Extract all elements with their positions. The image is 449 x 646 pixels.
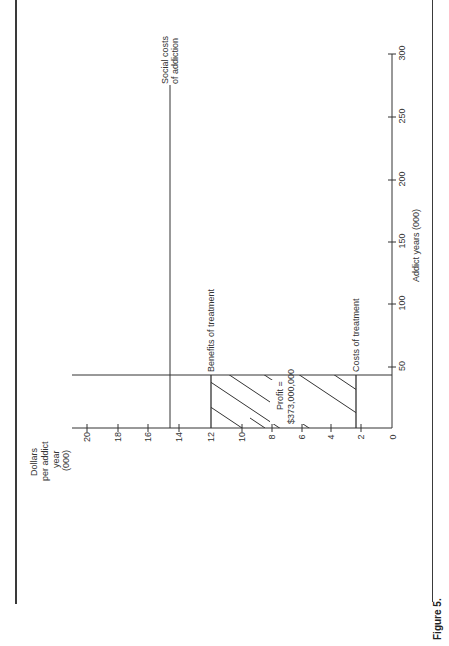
x-tick-label-250: 250 (397, 106, 407, 126)
costs-label: Costs of treatment (352, 298, 362, 372)
y-axis-title-line-4: (000) (62, 450, 72, 471)
figure-caption: Figure 5. (432, 598, 443, 640)
y-tick-label-4: 4 (326, 427, 336, 447)
y-tick-label-8: 8 (267, 427, 277, 447)
y-tick-label-6: 6 (297, 427, 307, 447)
y-tick-label-12: 12 (206, 427, 216, 447)
x-tick-label-150: 150 (397, 231, 407, 251)
y-axis-title-line-2: per addict (41, 441, 51, 481)
x-tick-label-100: 100 (397, 293, 407, 313)
y-tick-label-20: 20 (82, 427, 92, 447)
y-tick-label-16: 16 (143, 427, 153, 447)
benefits-label: Benefits of treatment (207, 289, 217, 372)
y-tick-label-10: 10 (237, 427, 247, 447)
x-tick-label-50: 50 (397, 356, 407, 376)
y-tick-label-18: 18 (113, 427, 123, 447)
y-tick-label-14: 14 (174, 427, 184, 447)
profit-label-line-2: $373,000,000 (287, 369, 297, 424)
chart-canvas (0, 0, 449, 646)
x-tick-label-200: 200 (397, 169, 407, 189)
y-tick-label-0: 0 (388, 427, 398, 447)
social-costs-label-line-2: of addiction (171, 38, 181, 84)
x-axis-title: Addict years (000) (412, 209, 422, 282)
y-axis-title-line-1: Dollars (30, 448, 40, 476)
x-tick-label-300: 300 (397, 43, 407, 63)
y-tick-label-2: 2 (356, 427, 366, 447)
profit-label-line-1: Profit = (276, 381, 286, 410)
